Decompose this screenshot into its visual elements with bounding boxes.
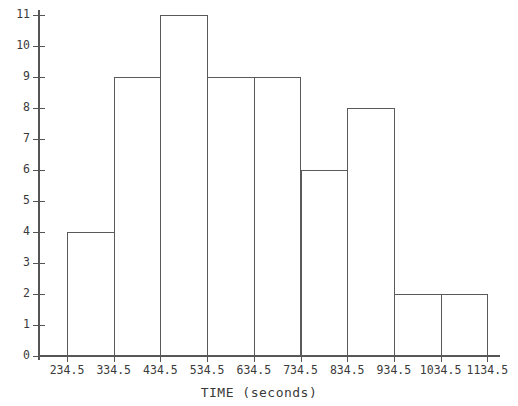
y-tick-label-wrap-9: 9 <box>0 71 30 83</box>
y-tick-9 <box>33 77 45 78</box>
y-tick-label: 2 <box>4 288 30 300</box>
y-tick-label: 10 <box>4 40 30 52</box>
histogram-bar <box>207 77 255 356</box>
y-tick-1 <box>33 325 45 326</box>
y-tick-label: 9 <box>4 71 30 83</box>
y-tick-label: 1 <box>4 319 30 331</box>
plot-area: 01234567891011 234.5334.5434.5534.5634.5… <box>0 0 518 406</box>
y-tick-4 <box>33 232 45 233</box>
y-tick-8 <box>33 108 45 109</box>
histogram-bar <box>67 232 115 356</box>
y-tick-label: 5 <box>4 195 30 207</box>
x-axis-title: TIME (seconds) <box>0 385 518 400</box>
histogram-bar <box>441 294 489 356</box>
y-tick-10 <box>33 46 45 47</box>
histogram-bar <box>160 15 208 356</box>
y-tick-label-wrap-4: 4 <box>0 226 30 238</box>
y-tick-7 <box>33 139 45 140</box>
x-tick-label: 1134.5 <box>457 364 517 377</box>
y-tick-label-wrap-10: 10 <box>0 40 30 52</box>
y-tick-label-wrap-8: 8 <box>0 102 30 114</box>
y-tick-label: 7 <box>4 133 30 145</box>
y-tick-label-wrap-5: 5 <box>0 195 30 207</box>
y-tick-0 <box>33 356 45 357</box>
histogram-bar <box>347 108 395 356</box>
histogram-bar <box>394 294 442 356</box>
y-tick-11 <box>33 15 45 16</box>
y-tick-label-wrap-2: 2 <box>0 288 30 300</box>
y-tick-label: 8 <box>4 102 30 114</box>
y-tick-label-wrap-3: 3 <box>0 257 30 269</box>
y-tick-label: 0 <box>4 350 30 362</box>
y-tick-label: 11 <box>4 9 30 21</box>
histogram-chart: 01234567891011 234.5334.5434.5534.5634.5… <box>0 0 518 406</box>
y-tick-2 <box>33 294 45 295</box>
histogram-bar <box>114 77 162 356</box>
y-tick-label: 6 <box>4 164 30 176</box>
y-tick-label-wrap-1: 1 <box>0 319 30 331</box>
histogram-bar <box>254 77 302 356</box>
y-tick-label-wrap-11: 11 <box>0 9 30 21</box>
y-tick-label-wrap-6: 6 <box>0 164 30 176</box>
y-tick-label: 4 <box>4 226 30 238</box>
y-tick-3 <box>33 263 45 264</box>
y-tick-label: 3 <box>4 257 30 269</box>
y-tick-label-wrap-0: 0 <box>0 350 30 362</box>
y-axis-line <box>38 10 40 360</box>
y-tick-6 <box>33 170 45 171</box>
y-tick-label-wrap-7: 7 <box>0 133 30 145</box>
y-tick-5 <box>33 201 45 202</box>
histogram-bar <box>301 170 349 356</box>
